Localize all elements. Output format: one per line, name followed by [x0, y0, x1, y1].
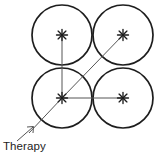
edge-diagonal [62, 35, 123, 98]
node-top-right [118, 30, 129, 41]
therapy-pointer-arrow [17, 98, 62, 141]
diagram-canvas: Therapy [0, 0, 161, 158]
node-bottom-right [118, 93, 129, 104]
overlapping-circles-diagram [0, 0, 161, 158]
edge-group [62, 35, 123, 98]
therapy-arrow-line [17, 127, 33, 141]
node-top-left [57, 30, 68, 41]
therapy-annotation-label: Therapy [3, 140, 46, 153]
node-bottom-left [57, 93, 68, 104]
